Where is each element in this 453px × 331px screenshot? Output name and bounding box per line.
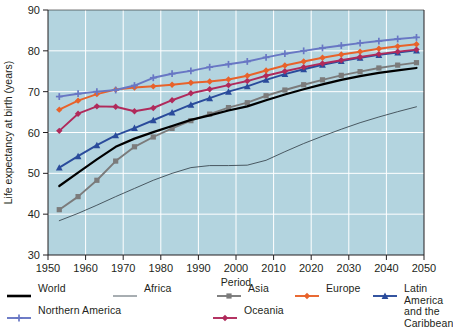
x-tick-label: 1980	[149, 262, 173, 274]
marker-square	[75, 194, 80, 199]
legend-key-icon	[112, 290, 138, 302]
chart-legend: WorldAfricaAsiaEuropeLatin America and t…	[0, 283, 440, 331]
legend-item-oceania[interactable]: Oceania	[212, 305, 284, 328]
y-tick-label: 60	[28, 127, 40, 139]
marker-square	[339, 73, 344, 78]
y-tick-label: 40	[28, 208, 40, 220]
x-tick-label: 1960	[73, 262, 97, 274]
y-tick-label: 80	[28, 45, 40, 57]
x-tick-label: 2000	[224, 262, 248, 274]
marker-diamond	[304, 293, 310, 299]
legend-label: Europe	[326, 283, 360, 295]
legend-key	[372, 288, 398, 306]
marker-square	[57, 207, 62, 212]
x-tick-label: 1950	[36, 262, 60, 274]
x-tick-label: 2040	[374, 262, 398, 274]
y-tick-label: 30	[28, 249, 40, 261]
x-tick-label: 2050	[412, 262, 436, 274]
marker-square	[320, 77, 325, 82]
legend-item-asia[interactable]: Asia	[216, 283, 269, 306]
y-axis-title: Life expectancy at birth (years)	[2, 61, 14, 205]
marker-square	[132, 144, 137, 149]
legend-key	[294, 288, 320, 306]
legend-item-world[interactable]: World	[6, 283, 66, 306]
legend-key-marker	[226, 293, 231, 298]
x-tick-label: 2020	[299, 262, 323, 274]
legend-key-icon	[294, 290, 320, 302]
marker-square	[414, 60, 419, 65]
marker-square	[94, 178, 99, 183]
legend-key-marker	[16, 315, 23, 322]
legend-label: Oceania	[244, 305, 284, 317]
marker-square	[151, 134, 156, 139]
marker-square	[113, 158, 118, 163]
marker-square	[376, 65, 381, 70]
y-tick-label: 50	[28, 167, 40, 179]
legend-key	[6, 310, 32, 328]
legend-label: World	[38, 283, 66, 295]
legend-key-icon	[372, 290, 398, 302]
x-tick-label: 2010	[261, 262, 285, 274]
marker-square	[301, 82, 306, 87]
legend-label: Northern America	[38, 305, 121, 317]
marker-square	[263, 93, 268, 98]
legend-key	[212, 310, 238, 328]
marker-square	[357, 69, 362, 74]
legend-key-icon	[212, 312, 238, 324]
legend-key-icon	[6, 290, 32, 302]
legend-item-africa[interactable]: Africa	[112, 283, 171, 306]
legend-row-2: Northern AmericaOceania	[0, 305, 440, 327]
x-tick-label: 2030	[337, 262, 361, 274]
marker-square	[282, 87, 287, 92]
legend-item-europe[interactable]: Europe	[294, 283, 360, 306]
legend-key	[216, 288, 242, 306]
legend-key-marker	[222, 315, 228, 321]
marker-square	[395, 63, 400, 68]
legend-key-icon	[6, 312, 32, 324]
legend-key-marker	[304, 293, 310, 299]
x-tick-label: 1990	[186, 262, 210, 274]
legend-key	[6, 288, 32, 306]
marker-square	[245, 100, 250, 105]
x-tick-label: 1970	[111, 262, 135, 274]
legend-label: Asia	[248, 283, 269, 295]
legend-key-icon	[216, 290, 242, 302]
legend-label: Africa	[144, 283, 171, 295]
marker-square	[226, 293, 231, 298]
marker-diamond	[222, 315, 228, 321]
y-tick-label: 70	[28, 86, 40, 98]
legend-row-1: WorldAfricaAsiaEuropeLatin America and t…	[0, 283, 440, 305]
y-tick-label: 90	[28, 4, 40, 16]
legend-item-northern-america[interactable]: Northern America	[6, 305, 121, 328]
